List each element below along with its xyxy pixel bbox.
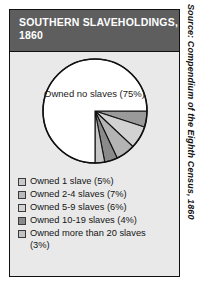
chart-title-bar: SOUTHERN SLAVEHOLDINGS, 1860	[10, 10, 179, 52]
legend-label: Owned 10-19 slaves (4%)	[30, 215, 137, 227]
legend-label: Owned 2-4 slaves (7%)	[30, 189, 127, 201]
legend-swatch-icon	[18, 230, 26, 238]
pie-chart: Owned no slaves (75%)	[42, 58, 148, 164]
legend-item[interactable]: Owned more than 20 slaves (3%)	[18, 228, 173, 251]
legend-swatch-icon	[18, 217, 26, 225]
legend-label: Owned more than 20 slaves (3%)	[30, 228, 146, 251]
chart-legend: Owned 1 slave (5%)Owned 2-4 slaves (7%)O…	[18, 176, 173, 253]
legend-label: Owned 1 slave (5%)	[30, 176, 114, 188]
page-title-year: 1860	[19, 29, 170, 42]
legend-swatch-icon	[18, 191, 26, 199]
chart-area: Owned no slaves (75%) Owned 1 slave (5%)…	[10, 52, 179, 276]
legend-item[interactable]: Owned 10-19 slaves (4%)	[18, 215, 173, 227]
chart-panel: SOUTHERN SLAVEHOLDINGS, 1860 Owned no sl…	[9, 9, 180, 277]
legend-item[interactable]: Owned 5-9 slaves (6%)	[18, 202, 173, 214]
source-note: Source: Compendium of the Eighth Census,…	[186, 4, 196, 292]
page-title: SOUTHERN SLAVEHOLDINGS,	[19, 16, 170, 29]
legend-swatch-icon	[18, 178, 26, 186]
pie-svg	[42, 58, 148, 164]
legend-item[interactable]: Owned 2-4 slaves (7%)	[18, 189, 173, 201]
legend-swatch-icon	[18, 204, 26, 212]
legend-label: Owned 5-9 slaves (6%)	[30, 202, 127, 214]
legend-item[interactable]: Owned 1 slave (5%)	[18, 176, 173, 188]
figure-root: SOUTHERN SLAVEHOLDINGS, 1860 Owned no sl…	[0, 0, 222, 295]
